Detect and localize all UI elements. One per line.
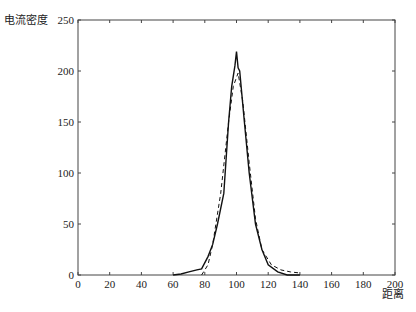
x-tick-label: 140 bbox=[292, 278, 309, 290]
series-lines bbox=[173, 52, 300, 275]
x-tick-label: 80 bbox=[199, 278, 211, 290]
x-tick-label: 160 bbox=[323, 278, 340, 290]
y-tick-label: 150 bbox=[58, 116, 75, 128]
x-tick-label: 40 bbox=[136, 278, 148, 290]
axes: 0204060801001201401601802000501001502002… bbox=[58, 14, 404, 290]
y-tick-label: 50 bbox=[63, 218, 75, 230]
y-axis-label: 电流密度 bbox=[4, 13, 48, 26]
y-tick-label: 0 bbox=[69, 269, 75, 281]
x-tick-label: 0 bbox=[75, 278, 81, 290]
current-density-chart: 0204060801001201401601802000501001502002… bbox=[0, 0, 416, 312]
solid-line bbox=[173, 52, 300, 275]
x-tick-label: 120 bbox=[260, 278, 277, 290]
x-tick-label: 180 bbox=[355, 278, 372, 290]
x-tick-label: 20 bbox=[104, 278, 116, 290]
dashed-line bbox=[202, 73, 300, 275]
y-tick-label: 200 bbox=[58, 65, 75, 77]
x-tick-label: 60 bbox=[168, 278, 180, 290]
x-axis-label: 距离 bbox=[382, 287, 404, 300]
x-tick-label: 100 bbox=[228, 278, 245, 290]
y-tick-label: 250 bbox=[58, 14, 75, 26]
y-tick-label: 100 bbox=[58, 167, 75, 179]
